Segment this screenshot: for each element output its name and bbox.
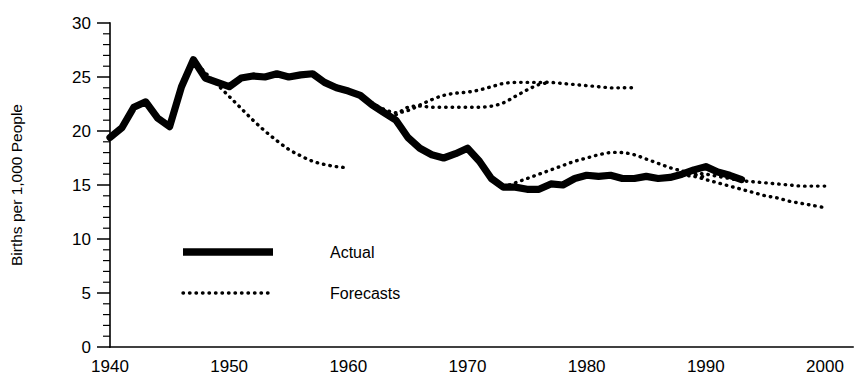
series-line-forecast [396, 82, 551, 114]
y-tick-label: 0 [82, 338, 91, 357]
birth-rate-chart: Births per 1,000 People 051015202530 194… [0, 0, 868, 384]
legend-label: Forecasts [330, 285, 400, 302]
y-tick-label: 20 [72, 122, 91, 141]
y-axis-label: Births per 1,000 People [8, 104, 25, 266]
y-axis-tick-labels: 051015202530 [72, 14, 91, 357]
y-tick-label: 30 [72, 14, 91, 33]
x-axis-tick-labels: 1940195019601970198019902000 [91, 357, 844, 376]
x-tick-label: 1950 [210, 357, 248, 376]
data-series-group [110, 60, 825, 208]
y-tick-label: 5 [82, 284, 91, 303]
x-tick-label: 1960 [329, 357, 367, 376]
legend-label: Actual [330, 244, 374, 261]
series-line-actual [110, 60, 742, 190]
x-tick-label: 1970 [449, 357, 487, 376]
y-axis-major-ticks [97, 23, 110, 347]
x-tick-label: 2000 [806, 357, 844, 376]
x-tick-label: 1940 [91, 357, 129, 376]
series-line-forecast [503, 152, 706, 187]
series-line-forecast [682, 173, 825, 186]
y-tick-label: 10 [72, 230, 91, 249]
y-tick-label: 25 [72, 68, 91, 87]
x-tick-label: 1990 [687, 357, 725, 376]
x-tick-label: 1980 [568, 357, 606, 376]
chart-canvas: Births per 1,000 People 051015202530 194… [0, 0, 868, 384]
y-tick-label: 15 [72, 176, 91, 195]
chart-legend: ActualForecasts [183, 244, 400, 302]
